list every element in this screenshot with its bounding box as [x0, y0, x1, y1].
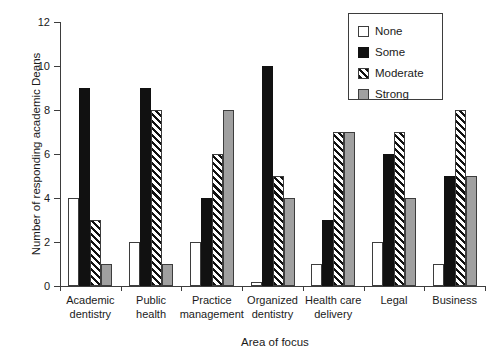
x-tick-mark: [181, 286, 182, 291]
legend-swatch-moderate: [358, 68, 369, 79]
bar: [455, 110, 466, 286]
legend-item-label: Moderate: [375, 67, 424, 79]
bar: [201, 198, 212, 286]
x-axis-label-line: delivery: [290, 308, 376, 322]
legend-item-label: Some: [375, 46, 405, 58]
x-tick-mark: [60, 286, 61, 291]
legend-item[interactable]: Moderate: [358, 63, 442, 83]
x-tick-mark: [303, 286, 304, 291]
x-axis-label-line: Business: [412, 294, 492, 308]
bar: [311, 264, 322, 286]
legend-swatch-none: [358, 26, 369, 37]
x-tick-mark: [121, 286, 122, 291]
legend-item[interactable]: Some: [358, 42, 442, 62]
bar: [344, 132, 355, 286]
legend-item-label: Strong: [375, 88, 409, 100]
bar: [394, 132, 405, 286]
chart-legend: NoneSomeModerateStrong: [348, 13, 443, 100]
x-tick-mark: [364, 286, 365, 291]
bar-group: [129, 22, 173, 286]
bar: [284, 198, 295, 286]
legend-swatch-some: [358, 47, 369, 58]
bar: [140, 88, 151, 286]
bar-group: [190, 22, 234, 286]
bar: [433, 264, 444, 286]
bar: [372, 242, 383, 286]
bar-group: [251, 22, 295, 286]
legend-swatch-strong: [358, 89, 369, 100]
bar: [333, 132, 344, 286]
x-axis-label: Business: [412, 294, 492, 308]
x-tick-mark: [485, 286, 486, 291]
bar-chart-figure: 024681012 Number of responding academic …: [0, 0, 492, 356]
bar: [466, 176, 477, 286]
bar: [162, 264, 173, 286]
legend-item[interactable]: Strong: [358, 84, 442, 104]
bar: [223, 110, 234, 286]
bar: [79, 88, 90, 286]
bar: [251, 282, 262, 286]
bar: [273, 176, 284, 286]
legend-item[interactable]: None: [358, 21, 442, 41]
bar: [322, 220, 333, 286]
x-axis-line: [60, 286, 485, 287]
y-axis-title: Number of responding academic Deans: [30, 24, 42, 284]
bar: [129, 242, 140, 286]
bar: [90, 220, 101, 286]
bar: [212, 154, 223, 286]
bar: [151, 110, 162, 286]
bar: [190, 242, 201, 286]
bar: [383, 154, 394, 286]
legend-item-label: None: [375, 25, 403, 37]
x-tick-mark: [242, 286, 243, 291]
x-tick-mark: [424, 286, 425, 291]
bar: [68, 198, 79, 286]
x-axis-title: Area of focus: [150, 336, 400, 348]
bar: [444, 176, 455, 286]
bar: [101, 264, 112, 286]
bar-group: [68, 22, 112, 286]
bar: [262, 66, 273, 286]
bar: [405, 198, 416, 286]
